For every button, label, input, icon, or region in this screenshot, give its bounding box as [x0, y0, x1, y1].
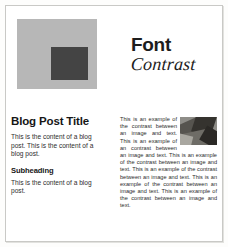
- page-title-line-contrast: Contrast: [130, 55, 223, 74]
- blog-sample-column: Blog Post Title This is the content of a…: [11, 115, 104, 196]
- color-contrast-swatch-inner: [51, 47, 88, 80]
- blog-subheading: Subheading: [11, 166, 104, 176]
- sample-photo-image: [180, 117, 217, 145]
- page-title-line-font: Font: [131, 35, 223, 54]
- slide-page: Font Contrast Blog Post Title This is th…: [0, 0, 228, 247]
- blog-post-title: Blog Post Title: [11, 115, 104, 128]
- page-title: Font Contrast: [131, 35, 223, 74]
- image-contrast-column: This is an example of the contrast betwe…: [120, 116, 217, 210]
- blog-paragraph-one: This is the content of a blog post. This…: [11, 133, 104, 159]
- color-contrast-swatch-outer: [17, 19, 97, 89]
- blog-paragraph-two: This is the content of a blog post.: [11, 179, 104, 196]
